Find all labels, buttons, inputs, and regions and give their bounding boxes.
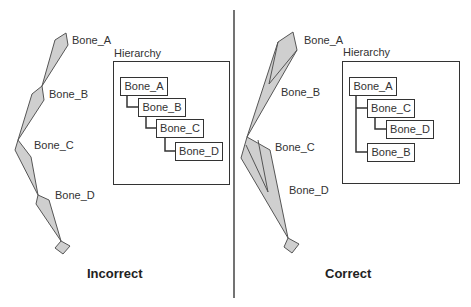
end-effector-shape [284,238,299,253]
bone-c-label: Bone_C [275,142,315,153]
hierarchy-node-bone-d: Bone_D [175,142,223,161]
bone-d-shape [36,195,61,241]
hierarchy-node-bone-d: Bone_D [386,120,434,139]
hierarchy-title: Hierarchy [114,48,161,59]
end-effector-shape [55,241,70,254]
bone-c-label: Bone_C [34,140,74,151]
incorrect-caption: Incorrect [87,267,143,280]
bone-a-label: Bone_A [304,35,343,46]
bone-a-shape [42,33,68,86]
bone-b-label: Bone_B [281,87,320,98]
bone-a-label: Bone_A [72,35,111,46]
bone-b-shape [18,86,44,140]
hierarchy-node-bone-b: Bone_B [367,143,415,162]
hierarchy-node-bone-c: Bone_C [156,119,204,138]
hierarchy-node-bone-c: Bone_C [367,99,415,118]
bone-a-shape [247,32,297,137]
hierarchy-node-bone-b: Bone_B [138,98,186,117]
correct-caption: Correct [325,267,371,280]
hierarchy-node-bone-a: Bone_A [120,77,168,96]
bone-d-label: Bone_D [289,185,329,196]
bone-d-label: Bone_D [55,190,95,201]
hierarchy-title: Hierarchy [343,47,390,58]
bone-b-label: Bone_B [49,89,88,100]
hierarchy-node-bone-a: Bone_A [349,77,397,96]
